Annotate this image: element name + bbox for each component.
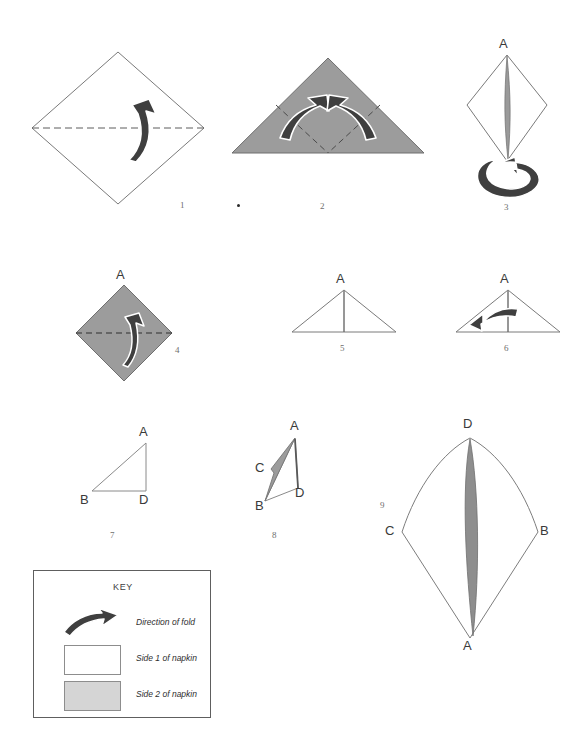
step-1-figure: 1 bbox=[28, 48, 208, 208]
vertex-label-C-step9: C bbox=[385, 523, 394, 538]
vertex-label-D-step7: D bbox=[139, 492, 148, 507]
key-row-side-1: Side 1 of napkin bbox=[34, 643, 212, 677]
key-row-direction-of-fold: Direction of fold bbox=[34, 607, 212, 641]
step-number-5: 5 bbox=[340, 343, 345, 353]
key-label-side-2: Side 2 of napkin bbox=[136, 689, 197, 699]
vertex-label-D-step8: D bbox=[295, 485, 304, 500]
step-number-9: 9 bbox=[380, 500, 385, 510]
napkin-shape-right-triangle bbox=[92, 443, 146, 491]
step-number-7: 7 bbox=[110, 530, 115, 540]
vertex-label-A-step9: A bbox=[463, 638, 472, 653]
vertex-label-B-step7: B bbox=[80, 492, 89, 507]
fold-arrow-icon bbox=[60, 607, 126, 641]
key-row-side-2: Side 2 of napkin bbox=[34, 679, 212, 713]
vertex-label-B-step9: B bbox=[540, 523, 549, 538]
step-number-3: 3 bbox=[504, 202, 509, 212]
step-9-figure: D C B A 9 bbox=[375, 430, 565, 655]
step-number-4: 4 bbox=[175, 345, 180, 355]
step-number-6: 6 bbox=[504, 343, 509, 353]
vertex-label-C-step8: C bbox=[255, 460, 264, 475]
step-5-figure: A 5 bbox=[288, 287, 400, 337]
step-6-figure: A 6 bbox=[452, 287, 564, 337]
step-2-figure: 2 bbox=[228, 55, 428, 205]
key-label-direction-of-fold: Direction of fold bbox=[136, 617, 195, 627]
diagram-sheet: 1 2 bbox=[0, 0, 573, 754]
step-number-1: 1 bbox=[180, 200, 185, 210]
vertex-label-B-step8: B bbox=[255, 498, 264, 513]
key-label-side-1: Side 1 of napkin bbox=[136, 653, 197, 663]
vertex-label-A-step3: A bbox=[499, 36, 508, 51]
step-7-figure: A B D 7 bbox=[88, 440, 168, 500]
vertex-label-D-step9: D bbox=[463, 416, 472, 431]
step-3-figure: A 3 bbox=[452, 52, 562, 192]
vertex-label-A-step5: A bbox=[336, 271, 345, 286]
step-number-8: 8 bbox=[272, 530, 277, 540]
vertex-label-A-step6: A bbox=[500, 271, 509, 286]
step-number-2: 2 bbox=[320, 201, 325, 211]
step-4-figure: A 4 bbox=[74, 283, 174, 383]
key-title: KEY bbox=[34, 582, 212, 592]
key-legend-box: KEY Direction of fold Side 1 of napkin S… bbox=[33, 570, 211, 718]
gray-swatch bbox=[64, 681, 121, 711]
step-8-figure: A C B D 8 bbox=[250, 432, 320, 512]
white-swatch bbox=[64, 645, 121, 675]
turn-over-arrow-icon bbox=[477, 157, 539, 197]
vertex-label-A-step8: A bbox=[290, 418, 299, 433]
vertex-label-A-step7: A bbox=[139, 424, 148, 439]
vertex-label-A-step4: A bbox=[116, 267, 125, 282]
